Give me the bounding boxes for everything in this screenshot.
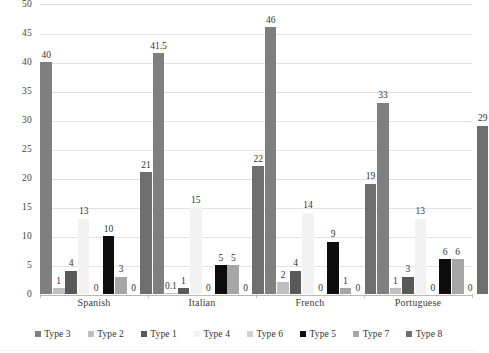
legend-item-type-3[interactable]: Type 3 — [35, 329, 71, 339]
bar-value-label: 0 — [131, 284, 136, 294]
bar-group-italian: 41.50.1115055022 — [152, 4, 264, 294]
bar-value-label: 0.1 — [165, 282, 177, 292]
legend-item-type-7[interactable]: Type 7 — [353, 329, 389, 339]
bar-fill: 3 — [115, 277, 127, 294]
legend-swatch-icon — [353, 331, 359, 337]
x-axis-category-labels: SpanishItalianFrenchPortuguese — [40, 297, 472, 308]
bar-spanish-type-1[interactable]: 4 — [65, 4, 77, 294]
bar-value-label: 15 — [191, 196, 201, 206]
y-axis-tick-45: 45 — [22, 28, 32, 38]
bar-fill: 46 — [265, 27, 277, 294]
legend-item-type-4[interactable]: Type 4 — [194, 329, 230, 339]
y-axis-tick-25: 25 — [22, 144, 32, 154]
bar-french-type-2[interactable]: 2 — [277, 4, 289, 294]
y-axis-tick-5: 5 — [27, 260, 32, 270]
x-axis-tick — [472, 294, 473, 298]
legend-swatch-icon — [300, 331, 306, 337]
bar-fill: 1 — [178, 288, 190, 294]
bar-italian-type-6[interactable]: 0 — [203, 4, 215, 294]
bar-portuguese-type-8[interactable]: 0 — [464, 4, 476, 294]
bar-spanish-type-6[interactable]: 0 — [90, 4, 102, 294]
legend-swatch-icon — [141, 331, 147, 337]
bar-value-label: 33 — [378, 91, 388, 101]
bar-portuguese-type-6[interactable]: 0 — [427, 4, 439, 294]
legend-item-type-2[interactable]: Type 2 — [88, 329, 124, 339]
legend-item-type-6[interactable]: Type 6 — [247, 329, 283, 339]
bar-french-type-1[interactable]: 4 — [290, 4, 302, 294]
bar-portuguese-type-4[interactable]: 13 — [415, 4, 427, 294]
bar-french-type-8[interactable]: 0 — [352, 4, 364, 294]
bar-portuguese-type-5[interactable]: 6 — [439, 4, 451, 294]
bar-value-label: 10 — [104, 225, 114, 235]
bar-value-label: 3 — [119, 265, 124, 275]
legend-item-type-8[interactable]: Type 8 — [406, 329, 442, 339]
bar-fill: 4 — [65, 271, 77, 294]
category-label-spanish: Spanish — [40, 297, 148, 308]
bar-fill: 13 — [415, 219, 427, 294]
bar-value-label: 0 — [430, 284, 435, 294]
bar-italian-type-8-total[interactable]: 22 — [252, 4, 264, 294]
bar-groups: 401413010302141.50.111505502246241409101… — [40, 4, 472, 294]
bar-fill: 1 — [390, 288, 402, 294]
bar-value-label: 14 — [303, 201, 313, 211]
bar-fill: 29 — [477, 126, 489, 294]
bar-group-portuguese: 331313066029 — [377, 4, 489, 294]
bar-value-label: 1 — [343, 277, 348, 287]
legend-item-type-5[interactable]: Type 5 — [300, 329, 336, 339]
bar-fill: 4 — [290, 271, 302, 294]
legend-label: Type 7 — [363, 329, 390, 339]
legend-item-type-1[interactable]: Type 1 — [141, 329, 177, 339]
bar-french-type-5[interactable]: 9 — [327, 4, 339, 294]
bar-fill: 41.5 — [153, 53, 165, 294]
y-axis-tick-30: 30 — [22, 115, 32, 125]
bar-italian-type-8[interactable]: 0 — [240, 4, 252, 294]
bar-french-type-8-total[interactable]: 19 — [365, 4, 377, 294]
bar-value-label: 4 — [69, 259, 74, 269]
legend-label: Type 6 — [257, 329, 284, 339]
bar-value-label: 0 — [243, 284, 248, 294]
bar-spanish-type-3[interactable]: 40 — [40, 4, 52, 294]
bar-portuguese-type-7[interactable]: 6 — [452, 4, 464, 294]
bar-fill: 22 — [252, 166, 264, 294]
bar-fill: 6 — [439, 259, 451, 294]
bar-french-type-6[interactable]: 0 — [315, 4, 327, 294]
bar-value-label: 5 — [231, 254, 236, 264]
bar-italian-type-1[interactable]: 1 — [178, 4, 190, 294]
bar-italian-type-4[interactable]: 15 — [190, 4, 202, 294]
bar-fill: 21 — [140, 172, 152, 294]
bar-portuguese-type-1[interactable]: 3 — [402, 4, 414, 294]
bar-spanish-type-4[interactable]: 13 — [78, 4, 90, 294]
bar-portuguese-type-3[interactable]: 33 — [377, 4, 389, 294]
bar-fill: 0.1 — [165, 293, 177, 294]
bar-value-label: 0 — [356, 284, 361, 294]
bar-spanish-type-7[interactable]: 3 — [115, 4, 127, 294]
bar-french-type-3[interactable]: 46 — [265, 4, 277, 294]
bar-italian-type-7[interactable]: 5 — [227, 4, 239, 294]
bar-french-type-7[interactable]: 1 — [340, 4, 352, 294]
bar-fill: 19 — [365, 184, 377, 294]
bar-portuguese-type-2[interactable]: 1 — [390, 4, 402, 294]
bar-group-spanish: 4014130103021 — [40, 4, 152, 294]
bar-fill: 5 — [215, 265, 227, 294]
bar-portuguese-type-8-total[interactable]: 29 — [477, 4, 489, 294]
y-axis-tick-labels: 05101520253035404550 — [0, 4, 36, 302]
bar-italian-type-5[interactable]: 5 — [215, 4, 227, 294]
bar-value-label: 13 — [416, 207, 426, 217]
bar-italian-type-3[interactable]: 41.5 — [153, 4, 165, 294]
legend-swatch-icon — [35, 331, 41, 337]
bar-spanish-type-5[interactable]: 10 — [103, 4, 115, 294]
bar-fill: 2 — [277, 282, 289, 294]
bar-value-label: 1 — [393, 277, 398, 287]
bar-fill: 40 — [40, 62, 52, 294]
bar-value-label: 1 — [181, 277, 186, 287]
bar-italian-type-2[interactable]: 0.1 — [165, 4, 177, 294]
bar-spanish-type-8[interactable]: 0 — [128, 4, 140, 294]
bar-fill: 1 — [53, 288, 65, 294]
plot-wrapper: 05101520253035404550 401413010302141.50.… — [0, 4, 477, 302]
bar-value-label: 9 — [331, 230, 336, 240]
bar-french-type-4[interactable]: 14 — [302, 4, 314, 294]
bar-value-label: 0 — [318, 284, 323, 294]
bar-value-label: 22 — [253, 155, 263, 165]
bar-fill: 5 — [227, 265, 239, 294]
bar-spanish-type-2[interactable]: 1 — [53, 4, 65, 294]
